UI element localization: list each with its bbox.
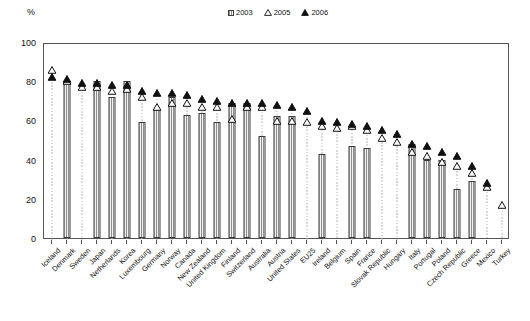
marker-2006 <box>333 118 342 126</box>
x-axis-category-label: Hungary <box>260 246 408 321</box>
x-axis-category-label: Slovak Republic <box>245 246 393 321</box>
x-axis-tick <box>216 240 217 244</box>
x-axis-tick <box>246 240 247 244</box>
x-axis-tick <box>66 240 67 244</box>
x-axis-tick <box>321 240 322 244</box>
bar-2003 <box>168 97 175 238</box>
x-axis-category-label: Mexico <box>350 246 498 321</box>
x-axis-tick <box>156 240 157 244</box>
x-axis-tick <box>456 240 457 244</box>
marker-2005 <box>152 103 161 111</box>
marker-2006 <box>423 142 432 150</box>
marker-2006 <box>468 162 477 170</box>
x-axis-tick <box>231 240 232 244</box>
x-axis-category-label: Spain <box>215 246 363 321</box>
marker-2006 <box>182 91 191 99</box>
column-guide-line <box>51 66 52 240</box>
chart-column <box>269 44 284 238</box>
x-axis-tick <box>336 240 337 244</box>
column-guide-line <box>307 107 308 240</box>
x-axis-tick <box>261 240 262 244</box>
column-guide-line <box>81 79 82 240</box>
marker-2006 <box>483 179 492 187</box>
x-axis-tick <box>411 240 412 244</box>
marker-2005 <box>393 138 402 146</box>
bar-2003 <box>93 81 100 238</box>
x-axis-tick <box>81 240 82 244</box>
x-axis-category-label: EU25 <box>170 246 318 321</box>
legend-label-2006: 2006 <box>311 8 328 17</box>
chart-column <box>194 44 209 238</box>
chart-legend: 2003 2005 2006 <box>228 8 328 17</box>
chart-column <box>89 44 104 238</box>
legend-item-2006: 2006 <box>301 8 328 17</box>
marker-2006 <box>318 117 327 125</box>
marker-2005 <box>453 162 462 170</box>
bar-2003 <box>108 97 115 238</box>
bar-2003 <box>63 83 70 238</box>
bar-2003 <box>424 160 431 238</box>
marker-2005 <box>227 115 236 123</box>
y-axis-tick-label: 80 <box>2 77 36 87</box>
bar-2003 <box>213 122 220 238</box>
chart-column <box>330 44 345 238</box>
chart-column <box>119 44 134 238</box>
bar-2003 <box>123 81 130 238</box>
x-axis-category-label: New Zealand <box>64 246 212 321</box>
bar-2003 <box>198 113 205 238</box>
marker-2005 <box>423 152 432 160</box>
bar-2003 <box>258 136 265 238</box>
chart-column <box>285 44 300 238</box>
x-axis-category-label: Austria <box>140 246 288 321</box>
bar-2003 <box>138 122 145 238</box>
x-axis-tick <box>276 240 277 244</box>
marker-2005 <box>408 148 417 156</box>
legend-item-2005: 2005 <box>264 8 291 17</box>
marker-2006 <box>378 126 387 134</box>
x-axis-category-label: Norway <box>34 246 182 321</box>
marker-2006 <box>77 79 86 87</box>
marker-2006 <box>393 130 402 138</box>
x-axis-tick <box>96 240 97 244</box>
marker-2006 <box>197 95 206 103</box>
bar-2003 <box>289 116 296 238</box>
x-axis-category-label: Switzerland <box>110 246 258 321</box>
x-axis-category-label: Germany <box>19 246 167 321</box>
x-axis-tick <box>141 240 142 244</box>
x-axis-category-label: Canada <box>49 246 197 321</box>
x-axis-category-label: Portugal <box>290 246 438 321</box>
x-axis-tick <box>381 240 382 244</box>
marker-2006 <box>303 107 312 115</box>
x-axis-tick <box>186 240 187 244</box>
marker-2005 <box>378 134 387 142</box>
y-axis-tick-label: 0 <box>2 234 36 244</box>
marker-2005 <box>167 99 176 107</box>
legend-label-2005: 2005 <box>274 8 291 17</box>
marker-2006 <box>257 99 266 107</box>
x-axis-tick <box>111 240 112 244</box>
x-axis-category-label: Iceland <box>0 246 62 321</box>
chart-column <box>450 44 465 238</box>
x-axis-category-label: Luxembourg <box>4 246 152 321</box>
bar-2003 <box>439 160 446 238</box>
chart-container: % 2003 2005 2006 020406080100 IcelandDen… <box>0 0 530 321</box>
x-axis-category-label: United Kingdom <box>79 246 227 321</box>
y-axis-tick-label: 100 <box>2 38 36 48</box>
bar-2003 <box>469 181 476 238</box>
hatched-square-swatch-icon <box>228 10 234 16</box>
chart-column <box>224 44 239 238</box>
x-axis-category-label: Denmark <box>0 246 77 321</box>
x-axis-category-label: United States <box>155 246 303 321</box>
x-axis-category-label: Finland <box>94 246 242 321</box>
marker-2006 <box>62 75 71 83</box>
marker-2005 <box>468 169 477 177</box>
y-axis-unit-label: % <box>27 7 35 17</box>
chart-column <box>345 44 360 238</box>
marker-2005 <box>303 118 312 126</box>
bar-2003 <box>273 116 280 238</box>
x-axis-category-label: Netherlands <box>0 246 122 321</box>
x-axis-category-label: Sweden <box>0 246 92 321</box>
marker-2005 <box>438 158 447 166</box>
chart-column <box>480 44 495 238</box>
plot-series-layer <box>44 44 508 238</box>
